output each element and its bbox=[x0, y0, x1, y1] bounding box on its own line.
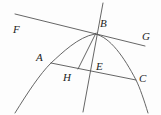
point-label-C: C bbox=[139, 72, 147, 84]
geometry-figure: FBGAHEC bbox=[0, 0, 161, 115]
point-label-E: E bbox=[95, 60, 103, 72]
figure-background bbox=[0, 0, 161, 115]
point-label-B: B bbox=[100, 17, 107, 29]
point-label-F: F bbox=[12, 23, 20, 35]
point-label-G: G bbox=[142, 30, 150, 42]
geometry-diagram-svg: FBGAHEC bbox=[0, 0, 161, 115]
point-label-A: A bbox=[35, 51, 43, 63]
point-label-H: H bbox=[62, 71, 72, 83]
